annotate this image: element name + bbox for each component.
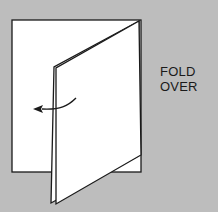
caption-line-2: OVER (160, 79, 198, 94)
caption-line-1: FOLD (160, 64, 198, 79)
fold-diagram (0, 0, 218, 212)
fold-over-caption: FOLD OVER (160, 64, 198, 94)
